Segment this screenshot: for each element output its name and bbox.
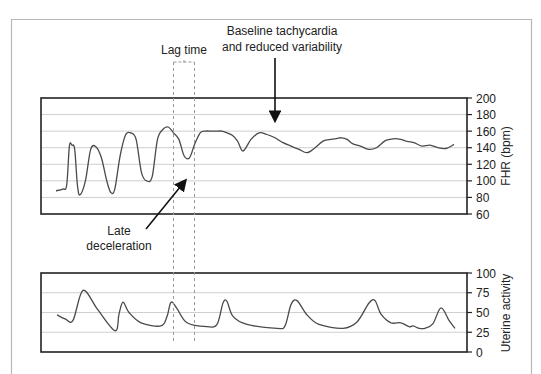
y-tick-label: 200: [476, 92, 496, 106]
baseline-label-line1: Baseline tachycardia: [227, 24, 338, 38]
lag-time-label: Lag time: [161, 43, 207, 57]
lag-time-bracket: Lag time: [161, 43, 207, 343]
y-tick-label: 100: [476, 174, 496, 188]
ua-y-axis: 1007550250: [467, 267, 496, 360]
late-deceleration-annotation: Late deceleration: [86, 181, 185, 253]
figure: 2001801601401201008060 FHR (bpm) 1007550…: [0, 0, 541, 374]
outer-frame: [12, 20, 532, 374]
late-label-line2: deceleration: [86, 239, 151, 253]
fhr-y-axis: 2001801601401201008060: [467, 92, 496, 222]
fhr-gridlines: [41, 115, 467, 198]
fhr-trace: [56, 127, 454, 195]
y-tick-label: 180: [476, 108, 496, 122]
y-tick-label: 140: [476, 141, 496, 155]
y-tick-label: 75: [476, 286, 490, 300]
late-deceleration-arrow-icon: [146, 181, 185, 229]
y-tick-label: 50: [476, 306, 490, 320]
y-tick-label: 60: [476, 208, 490, 222]
fhr-chart: 2001801601401201008060 FHR (bpm): [41, 92, 513, 222]
fhr-axis-label: FHR (bpm): [499, 126, 513, 185]
fhr-plot-box: [41, 98, 467, 214]
y-tick-label: 120: [476, 158, 496, 172]
y-tick-label: 100: [476, 267, 496, 281]
ua-axis-label: Uterine activity: [499, 274, 513, 353]
y-tick-label: 0: [476, 346, 483, 360]
baseline-label-line2: and reduced variability: [222, 40, 342, 54]
baseline-annotation: Baseline tachycardia and reduced variabi…: [222, 24, 342, 120]
late-label-line1: Late: [107, 224, 131, 238]
y-tick-label: 80: [476, 191, 490, 205]
uterine-activity-chart: 1007550250 Uterine activity: [41, 267, 513, 360]
ua-trace: [57, 290, 455, 331]
y-tick-label: 25: [476, 326, 490, 340]
y-tick-label: 160: [476, 125, 496, 139]
